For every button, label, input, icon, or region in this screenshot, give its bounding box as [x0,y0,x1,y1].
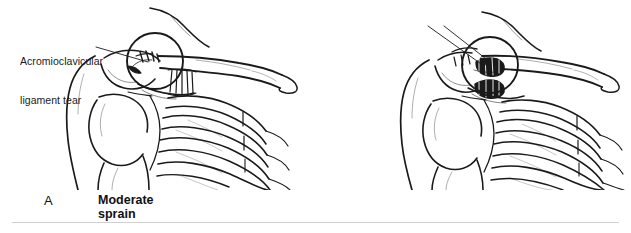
callout-a-line1: Acromioclavicular [20,55,103,68]
clavicle-shading [518,59,572,69]
highlight-circle-a [127,33,183,89]
chest-lateral-contour-3 [269,179,290,190]
scapula-lateral-border [150,96,160,170]
torn-conoid-ligament [476,58,504,76]
bottom-divider-rule [12,222,619,223]
panel-caption-a: Moderate sprain [98,193,154,221]
rib-shading-group [176,120,222,190]
leader-line-b1 [428,26,484,66]
chest-lateral-contour-1 [266,131,288,146]
anatomy-illustration-b [316,0,631,190]
rib-1 [502,100,600,135]
chest-lateral-contour-3 [603,183,624,190]
callout-label-a: Acromioclavicular ligament tear [20,29,103,133]
chest-lateral-contour-2 [601,159,623,174]
humeral-head-superior [433,98,482,136]
deltoid-shading [412,78,418,118]
humeral-head [423,104,477,170]
rib-4 [158,162,268,190]
chest-lateral-contour-2 [267,155,289,170]
humerus-shaft-medial [98,163,104,190]
humerus-shaft-medial [432,167,438,190]
panel-letter-a: A [44,193,53,208]
clavicle-shading [196,60,250,70]
figure-root: Acromioclavicular ligament tear A Modera… [0,0,631,233]
neck-contour [482,12,541,51]
sternal-end-of-clavicle [601,74,619,92]
scapula-lateral-border [484,100,494,172]
rib-shading-group [510,124,556,190]
leader-line-b2 [444,26,490,62]
humerus-shaft-lateral [477,160,483,190]
panel-moderate-sprain: Acromioclavicular ligament tear A Modera… [0,0,315,233]
glenoid-rim [128,92,152,96]
neck-shading [171,16,190,36]
callout-a-line2: ligament tear [20,94,103,107]
humerus-shading [112,168,118,190]
chest-lateral-contour-1 [600,135,622,150]
humerus-shaft-lateral [143,156,149,190]
neck-contour [150,8,209,47]
humeral-head-shading [434,108,439,140]
sternal-end-of-clavicle [279,75,297,93]
rib-3 [160,138,269,179]
humerus-shading [446,172,452,190]
rib-1 [168,96,266,131]
shoulder-outline [401,60,429,190]
neck-shading [503,20,522,40]
panel-severe-sprain: Conoid and trapezoid ligaments torn B Se… [316,0,631,233]
humeral-head-superior [99,94,148,132]
